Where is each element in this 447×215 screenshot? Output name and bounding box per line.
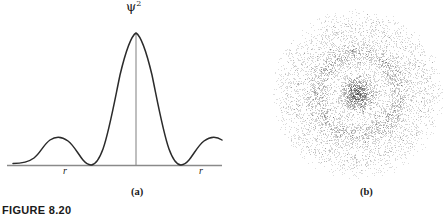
panel-a-probability-curve: ψ2 r r (a) [0,0,230,215]
y-axis-label-exponent: 2 [136,0,141,8]
y-axis-label: ψ2 [126,0,141,13]
x-tick-label-right: r [199,166,203,176]
y-axis-label-text: ψ [126,0,136,14]
electron-density-dot-cloud [268,4,447,184]
figure-number-label: FIGURE 8.20 [2,205,71,215]
panel-b-caption: (b) [360,187,373,198]
x-tick-label-left: r [63,166,67,176]
psi-squared-curve [13,33,222,165]
psi-squared-plot-svg [0,0,230,215]
figure-container: ψ2 r r (a) (b) FIGURE 8.20 [0,0,447,215]
panel-a-caption: (a) [131,187,143,198]
panel-b-electron-cloud [268,4,447,184]
